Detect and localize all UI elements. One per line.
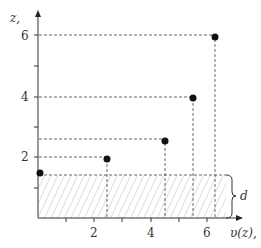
brace — [226, 175, 236, 218]
y-tick-2: 2 — [21, 150, 29, 164]
data-points — [37, 34, 219, 177]
x-tick-6: 6 — [203, 226, 211, 240]
chart: d 6 4 2 2 4 6 z, υ(z), — [0, 0, 261, 248]
y-axis-arrow-icon — [35, 10, 41, 17]
y-axis-label: z, — [9, 11, 20, 25]
x-tick-2: 2 — [90, 226, 98, 240]
hatched-region — [39, 175, 226, 218]
x-tick-4: 4 — [147, 226, 155, 240]
x-axis-arrow-icon — [236, 215, 243, 221]
y-tick-6: 6 — [21, 29, 29, 43]
d-label: d — [240, 189, 248, 203]
x-axis-label: υ(z), — [230, 226, 257, 240]
y-tick-4: 4 — [21, 90, 29, 104]
